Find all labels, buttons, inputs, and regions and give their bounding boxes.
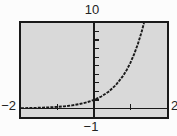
xmin-label: −2 [0, 99, 16, 113]
function-curve [21, 23, 144, 108]
graph-window [19, 21, 169, 119]
ymax-label: 10 [82, 3, 102, 17]
xmax-label: 2 [171, 99, 177, 113]
calculator-graph-figure: 10 −2 2 −1 [0, 0, 177, 136]
graph-canvas [21, 23, 167, 117]
ymin-label: −1 [81, 120, 101, 134]
